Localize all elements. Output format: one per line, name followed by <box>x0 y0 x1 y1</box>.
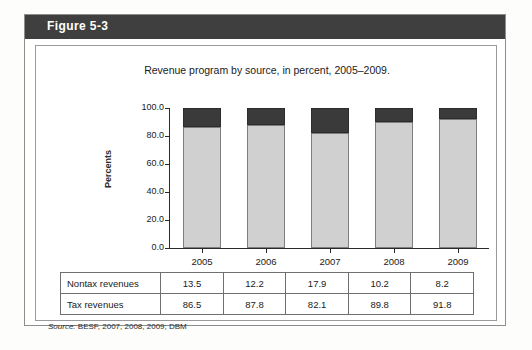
bar-segment-tax-2005 <box>183 127 221 248</box>
y-axis-tick-5: 100.0 <box>124 103 164 112</box>
table-cell-1-3: 89.8 <box>348 294 411 315</box>
table-row: Nontax revenues13.512.217.910.28.2 <box>61 273 474 294</box>
figure-frame: Figure 5-3 Revenue program by source, in… <box>24 14 506 326</box>
x-axis-tick-2005: 2005 <box>172 256 232 267</box>
bar-segment-tax-2007 <box>311 133 349 248</box>
bar-2005 <box>183 108 221 248</box>
y-axis-tick-1: 20.0 <box>124 215 164 224</box>
figure-body: Revenue program by source, in percent, 2… <box>35 45 497 321</box>
bar-2009 <box>439 108 477 248</box>
x-axis-line <box>169 248 489 249</box>
y-axis-tick-2: 40.0 <box>124 187 164 196</box>
bar-segment-tax-2009 <box>439 119 477 248</box>
bar-segment-nontax-2007 <box>311 108 349 133</box>
bar-segment-nontax-2008 <box>375 108 413 122</box>
figure-header-band: Figure 5-3 <box>25 15 505 39</box>
figure-number-label: Figure 5-3 <box>47 19 108 33</box>
source-note: Source: BESF, 2007, 2008, 2009; DBM <box>48 322 187 331</box>
source-text: BESF, 2007, 2008, 2009; DBM <box>78 322 187 331</box>
bar-segment-nontax-2005 <box>183 108 221 127</box>
y-axis-tick-3: 60.0 <box>124 159 164 168</box>
x-tick-mark-2007 <box>330 249 331 253</box>
y-axis-tick-0: 0.0 <box>124 243 164 252</box>
x-axis-tick-2009: 2009 <box>428 256 488 267</box>
table-cell-0-2: 17.9 <box>286 273 349 294</box>
table-cell-0-0: 13.5 <box>161 273 224 294</box>
table-cell-1-1: 87.8 <box>223 294 286 315</box>
bar-segment-tax-2006 <box>247 125 285 248</box>
source-prefix: Source: <box>48 322 76 331</box>
table-cell-0-1: 12.2 <box>223 273 286 294</box>
bar-segment-tax-2008 <box>375 122 413 248</box>
bar-2007 <box>311 108 349 248</box>
table-cell-1-4: 91.8 <box>411 294 474 315</box>
y-axis-tick-4: 80.0 <box>124 131 164 140</box>
table-row: Tax revenues86.587.882.189.891.8 <box>61 294 474 315</box>
x-axis-tick-2008: 2008 <box>364 256 424 267</box>
table-cell-1-0: 86.5 <box>161 294 224 315</box>
figure-root: Figure 5-3 Revenue program by source, in… <box>0 0 532 350</box>
bar-segment-nontax-2006 <box>247 108 285 125</box>
bar-2006 <box>247 108 285 248</box>
y-axis-label: Percents <box>103 129 113 209</box>
x-tick-mark-2005 <box>202 249 203 253</box>
x-tick-mark-2006 <box>266 249 267 253</box>
table-row-label-0: Nontax revenues <box>61 273 161 294</box>
x-axis-tick-2007: 2007 <box>300 256 360 267</box>
table-cell-0-3: 10.2 <box>348 273 411 294</box>
y-axis-line <box>169 108 170 249</box>
x-tick-mark-2009 <box>458 249 459 253</box>
bar-segment-nontax-2009 <box>439 108 477 119</box>
bar-2008 <box>375 108 413 248</box>
table-cell-0-4: 8.2 <box>411 273 474 294</box>
data-table: Nontax revenues13.512.217.910.28.2Tax re… <box>60 272 474 315</box>
table-row-label-1: Tax revenues <box>61 294 161 315</box>
x-tick-mark-2008 <box>394 249 395 253</box>
x-axis-tick-2006: 2006 <box>236 256 296 267</box>
table-cell-1-2: 82.1 <box>286 294 349 315</box>
